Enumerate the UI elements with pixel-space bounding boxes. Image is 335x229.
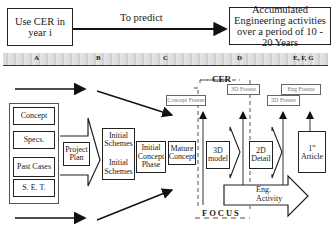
eng-activity-label: Eng. Activity bbox=[256, 186, 286, 204]
accumulated-activities-box: Accumulated Engineering activities over … bbox=[229, 7, 331, 45]
first-article-label: Article bbox=[301, 153, 323, 161]
phase-label-b: B bbox=[96, 54, 101, 62]
use-cer-box: Use CER in year i bbox=[7, 8, 73, 46]
eng-freeze-tag: Eng Freeze bbox=[281, 84, 321, 95]
mature-concept-box: Mature Concept bbox=[168, 141, 196, 165]
initial-concept-phase-box: Initial Concept Phase bbox=[136, 141, 166, 173]
bottom-diagonal-arrow bbox=[97, 190, 172, 220]
initial-schemes-stack: Initial Schemes Initial Schemes bbox=[102, 128, 135, 180]
cer-label: CER bbox=[212, 74, 231, 84]
phase-label-c: C bbox=[163, 54, 168, 62]
first-article-box: 1st Article bbox=[298, 131, 326, 173]
project-plan-box: Project Plan bbox=[63, 142, 90, 166]
initial-schemes-2: Initial Schemes bbox=[103, 159, 134, 176]
2d-detail-box: 2D Detail bbox=[249, 141, 273, 169]
input-set: S. E. T. bbox=[13, 179, 55, 197]
concept-freeze-tag: Concept Freeze bbox=[166, 95, 206, 106]
input-concept: Concept bbox=[13, 107, 55, 125]
phase-band: A B C D E, F, G bbox=[3, 53, 328, 66]
3d-freeze-tag: 3D Freeze bbox=[227, 84, 260, 95]
3d-model-box: 3D model bbox=[206, 141, 230, 169]
phase-label-d: D bbox=[237, 54, 242, 62]
top-diagonal-arrow bbox=[97, 91, 172, 115]
phase-label-a: A bbox=[34, 54, 39, 62]
initial-schemes-1: Initial Schemes bbox=[103, 132, 134, 149]
input-past-cases: Past Cases bbox=[13, 157, 55, 177]
2d-freeze-tag: 2D Freeze bbox=[267, 95, 300, 106]
phase-label-efg: E, F, G bbox=[293, 54, 314, 62]
to-predict-label: To predict bbox=[120, 12, 163, 23]
input-specs: Specs. bbox=[13, 131, 55, 149]
focus-label: FOCUS bbox=[202, 208, 241, 218]
